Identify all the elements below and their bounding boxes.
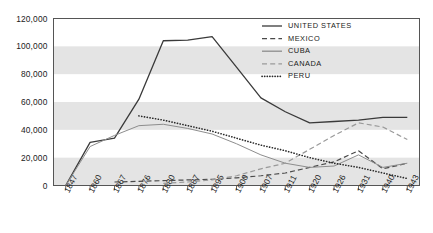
legend-label: UNITED STATES bbox=[288, 21, 352, 30]
y-axis-tick-label: 100,000 bbox=[16, 41, 48, 51]
line-chart: 120,000100,00080,00060,00040,00020,0000 … bbox=[0, 0, 433, 233]
y-axis-tick-label: 20,000 bbox=[21, 153, 48, 163]
y-axis-tick-label: 40,000 bbox=[21, 125, 48, 135]
chart-container: 120,000100,00080,00060,00040,00020,0000 … bbox=[0, 0, 433, 233]
shaded-band bbox=[54, 46, 420, 74]
y-axis-tick-label: 80,000 bbox=[21, 69, 48, 79]
y-axis-labels: 120,000100,00080,00060,00040,00020,0000 bbox=[16, 14, 48, 191]
legend-label: CANADA bbox=[288, 59, 322, 68]
legend-label: CUBA bbox=[288, 46, 311, 55]
y-axis-tick-label: 60,000 bbox=[21, 97, 48, 107]
legend-label: MEXICO bbox=[288, 34, 320, 43]
y-axis-tick-label: 120,000 bbox=[16, 14, 48, 24]
shaded-band bbox=[54, 102, 420, 130]
y-axis-tick-label: 0 bbox=[43, 181, 48, 191]
legend-label: PERU bbox=[288, 71, 311, 80]
